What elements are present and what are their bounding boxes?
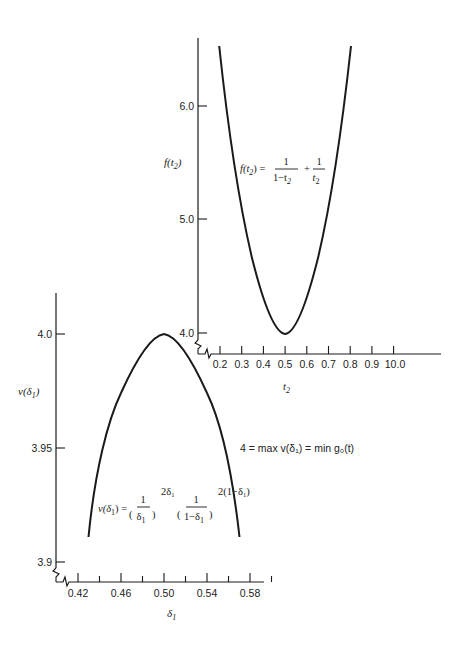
top-equation: f(t2) = 1 1−t2 + 1 t2 <box>240 156 325 186</box>
paren-close: ) <box>152 509 156 521</box>
top-x-tick-label: 0.5 <box>278 358 293 370</box>
top-y-axis-title: f(t2) <box>164 156 182 171</box>
paren-open: ( <box>177 509 181 521</box>
svg-text:v(δ1) =: v(δ1) = <box>98 503 127 517</box>
svg-text:1: 1 <box>283 156 288 167</box>
top-x-tick-label: 0.2 <box>213 358 228 370</box>
bottom-chart: 4.0 3.95 3.9 0.42 0.46 0.50 0.54 0.58 v(… <box>18 293 354 622</box>
svg-text:1: 1 <box>140 494 145 505</box>
bottom-y-tick-label: 4.0 <box>37 328 52 340</box>
bottom-y-axis-title: v(δ1) <box>18 385 40 400</box>
top-x-tick-label: 0.9 <box>365 358 380 370</box>
svg-text:1−δ1: 1−δ1 <box>184 511 204 525</box>
max-min-annotation: 4 = max v(δ₁) = min g₀(t) <box>240 442 354 454</box>
bottom-y-tick-label: 3.95 <box>32 442 53 454</box>
top-x-axis <box>198 349 441 358</box>
svg-text:2δ1: 2δ1 <box>161 486 174 498</box>
figure: 6.0 5.0 4.0 0.2 0.3 0.4 0.5 0.6 0.7 0.8 … <box>0 0 461 645</box>
paren-open: ( <box>129 509 133 521</box>
top-x-ticks <box>220 346 394 354</box>
svg-text:2(1−δ1): 2(1−δ1) <box>218 486 250 498</box>
svg-text:f(t2) =: f(t2) = <box>240 163 265 177</box>
bottom-x-axis <box>56 577 264 586</box>
top-x-tick-label: 0.8 <box>343 358 358 370</box>
top-y-axis-break <box>195 340 201 354</box>
svg-text:t2: t2 <box>313 172 320 186</box>
bottom-x-tick-label: 0.58 <box>240 587 261 599</box>
top-y-tick-label: 5.0 <box>179 213 194 225</box>
bottom-y-axis-break <box>53 568 59 582</box>
bottom-equation: v(δ1) = ( 1 δ1 ) 2δ1 ( 1 1−δ1 ) 2(1−δ1) <box>98 486 250 525</box>
svg-text:+: + <box>304 163 310 174</box>
bottom-y-tick-label: 3.9 <box>37 556 52 568</box>
bottom-x-axis-title: δ1 <box>167 607 176 622</box>
bottom-x-tick-label: 0.50 <box>154 587 175 599</box>
paren-close: ) <box>209 509 213 521</box>
top-x-tick-label: 0.7 <box>321 358 336 370</box>
top-x-tick-label: 0.4 <box>256 358 271 370</box>
top-curve-f-t2 <box>219 46 351 334</box>
top-chart: 6.0 5.0 4.0 0.2 0.3 0.4 0.5 0.6 0.7 0.8 … <box>164 38 441 395</box>
bottom-x-tick-label: 0.46 <box>111 587 132 599</box>
top-x-tick-label: 0.3 <box>234 358 249 370</box>
svg-text:δ1: δ1 <box>137 511 146 525</box>
svg-text:1−t2: 1−t2 <box>273 172 291 186</box>
bottom-x-tick-label: 0.54 <box>197 587 218 599</box>
bottom-x-tick-label: 0.42 <box>68 587 89 599</box>
top-y-tick-label: 4.0 <box>179 327 194 339</box>
top-x-tick-label: 0.6 <box>299 358 314 370</box>
bottom-x-ticks <box>78 573 272 582</box>
top-x-tick-label: 10.0 <box>385 358 406 370</box>
svg-text:1: 1 <box>316 156 321 167</box>
top-y-tick-label: 6.0 <box>179 100 194 112</box>
svg-text:1: 1 <box>193 494 198 505</box>
top-x-axis-title: t2 <box>283 380 290 395</box>
